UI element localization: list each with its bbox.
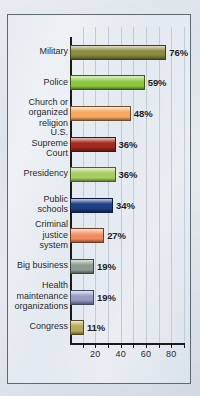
category-label-line: organizations	[10, 301, 68, 312]
bar[interactable]	[70, 137, 116, 152]
bar-value-label: 11%	[87, 322, 105, 333]
bar-shadow	[71, 300, 93, 303]
category-label-line: maintenance	[10, 291, 68, 302]
bar-value-label: 59%	[148, 77, 167, 88]
bar-row: 34%	[70, 198, 188, 213]
bar-row: 19%	[70, 259, 188, 274]
category-label: U.S.SupremeCourt	[10, 127, 68, 159]
bar-highlight	[71, 46, 165, 51]
bar-highlight	[71, 76, 144, 81]
category-label-line: Presidency	[10, 168, 68, 179]
bar[interactable]	[70, 228, 104, 243]
x-axis-tick	[171, 343, 172, 348]
bar-shadow	[71, 147, 115, 150]
bar-row: 36%	[70, 137, 188, 152]
category-label: Publicschools	[10, 194, 68, 215]
category-label: Criminaljusticesystem	[10, 219, 68, 251]
bar-shadow	[71, 178, 115, 181]
category-label-line: schools	[10, 204, 68, 215]
bar-highlight	[71, 260, 93, 265]
bar-highlight	[71, 291, 93, 296]
bar-highlight	[71, 321, 83, 326]
x-axis-tick	[108, 343, 109, 348]
x-axis-tick	[95, 343, 96, 348]
category-label-line: justice	[10, 230, 68, 241]
category-label-line: Health	[10, 280, 68, 291]
bar-shadow	[71, 86, 144, 89]
bar-row: 19%	[70, 290, 188, 305]
bar-value-label: 19%	[97, 261, 116, 272]
bar-highlight	[71, 229, 103, 234]
category-label: Healthmaintenanceorganizations	[10, 280, 68, 312]
category-label-line: Supreme	[10, 138, 68, 149]
bar-highlight	[71, 168, 115, 173]
bar-shadow	[71, 55, 165, 58]
category-label-line: system	[10, 240, 68, 251]
bar-row: 59%	[70, 75, 188, 90]
bar-highlight	[71, 199, 112, 204]
x-axis-tick-label: 80	[166, 349, 176, 359]
bar[interactable]	[70, 167, 116, 182]
x-axis-tick	[184, 343, 185, 348]
bar-highlight	[71, 138, 115, 143]
bar-value-label: 36%	[119, 139, 138, 150]
chart-panel: MilitaryPoliceChurch ororganizedreligion…	[7, 14, 191, 384]
category-label: Big business	[10, 260, 68, 271]
bar-row: 36%	[70, 167, 188, 182]
x-axis-tick	[159, 343, 160, 348]
bar[interactable]	[70, 75, 145, 90]
x-axis-tick	[146, 343, 147, 348]
bar-value-label: 48%	[134, 108, 153, 119]
bar[interactable]	[70, 320, 84, 335]
bar-row: 48%	[70, 106, 188, 121]
x-axis-tick-label: 60	[141, 349, 151, 359]
bar-shadow	[71, 331, 83, 334]
x-axis-tick-label: 20	[90, 349, 100, 359]
category-label-line: U.S.	[10, 127, 68, 138]
category-label: Congress	[10, 321, 68, 332]
bar-shadow	[71, 239, 103, 242]
bar-row: 76%	[70, 45, 188, 60]
bar-shadow	[71, 270, 93, 273]
bar-highlight	[71, 107, 130, 112]
x-axis-tick	[83, 343, 84, 348]
category-label: Church ororganizedreligion	[10, 97, 68, 129]
category-label-line: organized	[10, 107, 68, 118]
plot-area: 76%59%48%36%36%34%27%19%19%11% 20406080	[70, 27, 188, 367]
category-label-line: Church or	[10, 97, 68, 108]
category-label-line: Police	[10, 77, 68, 88]
x-axis-tick	[133, 343, 134, 348]
bar-value-label: 27%	[107, 230, 126, 241]
bar-value-label: 36%	[119, 169, 138, 180]
bar[interactable]	[70, 106, 131, 121]
category-label: Military	[10, 46, 68, 57]
x-axis-tick-label: 40	[115, 349, 125, 359]
bar[interactable]	[70, 290, 94, 305]
bar-value-label: 34%	[116, 200, 135, 211]
category-label-line: Court	[10, 148, 68, 159]
category-axis-labels: MilitaryPoliceChurch ororganizedreligion…	[8, 27, 68, 367]
bar[interactable]	[70, 45, 166, 60]
bar[interactable]	[70, 198, 113, 213]
bar-shadow	[71, 117, 130, 120]
category-label: Police	[10, 77, 68, 88]
bar-shadow	[71, 208, 112, 211]
bar-value-label: 19%	[97, 292, 116, 303]
category-label: Presidency	[10, 168, 68, 179]
category-label-line: Congress	[10, 321, 68, 332]
x-axis-line	[70, 343, 185, 345]
category-label-line: Big business	[10, 260, 68, 271]
category-label-line: Public	[10, 194, 68, 205]
category-label-line: Military	[10, 46, 68, 57]
x-axis-tick	[121, 343, 122, 348]
bar[interactable]	[70, 259, 94, 274]
chart-background: MilitaryPoliceChurch ororganizedreligion…	[0, 0, 200, 396]
bar-row: 27%	[70, 228, 188, 243]
bar-row: 11%	[70, 320, 188, 335]
category-label-line: Criminal	[10, 219, 68, 230]
bar-value-label: 76%	[169, 47, 188, 58]
